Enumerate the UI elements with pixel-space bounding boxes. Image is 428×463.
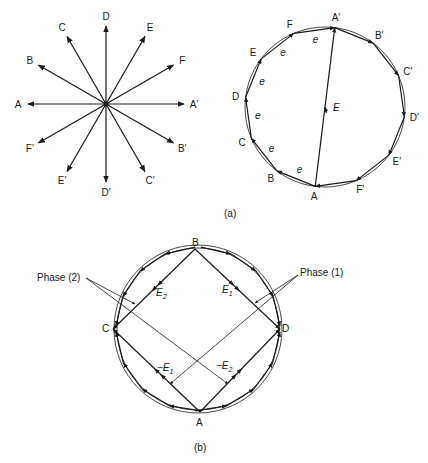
phasor-label: B xyxy=(26,55,33,66)
vertex-label: C xyxy=(239,137,246,148)
phasor-arrow xyxy=(38,65,106,104)
polygon-segment xyxy=(356,155,389,180)
phasor-label: A′ xyxy=(190,99,199,110)
arc-segment xyxy=(140,254,165,271)
e2-label: E2 xyxy=(156,287,167,300)
arc-segment xyxy=(116,332,123,363)
segment-e-label: e xyxy=(313,34,319,45)
neg-e2-label: −E2 xyxy=(216,360,233,373)
phasor-label: C xyxy=(58,22,65,33)
vertex-label: E′ xyxy=(393,156,402,167)
phasor-label: D′ xyxy=(101,187,110,198)
arc-segment xyxy=(142,389,169,406)
mid-arrow xyxy=(236,287,239,290)
vertex-label: A′ xyxy=(332,12,341,23)
phasor-label: F′ xyxy=(26,143,34,154)
vertex-label: C′ xyxy=(403,66,412,77)
resultant-mid-arrow xyxy=(325,107,327,113)
arc-segment xyxy=(254,363,273,389)
point-b-label: B xyxy=(192,237,199,248)
segment-e-label: e xyxy=(280,47,286,58)
mid-arrow xyxy=(238,369,241,372)
star-center xyxy=(104,102,109,107)
figure: ABCDEFA′B′C′D′E′F′ AeBeCeDeEeFeA′B′C′D′E… xyxy=(0,0,428,463)
vertex-label: A xyxy=(311,191,318,202)
phasor-label: A xyxy=(15,99,22,110)
vertex-label: D′ xyxy=(410,112,419,123)
inner-circle xyxy=(117,248,279,410)
mid-arrow xyxy=(158,282,161,285)
mid-arrow xyxy=(233,375,236,378)
polygon-segment xyxy=(261,33,294,58)
vertex-label: B xyxy=(268,173,275,184)
arc-segment xyxy=(273,332,280,363)
mid-arrow xyxy=(161,375,164,378)
arc-segment xyxy=(227,389,254,406)
phasor-label: B′ xyxy=(178,143,187,154)
phasor-arrow xyxy=(106,104,174,143)
point-d-label: D xyxy=(282,323,289,334)
outer-circle xyxy=(114,245,282,413)
arc-segment xyxy=(273,296,280,326)
phasor-arrow xyxy=(38,104,106,143)
vertex-label: F xyxy=(287,19,293,30)
arc-segment xyxy=(123,363,142,389)
point-a-label: A xyxy=(196,417,203,428)
polygon-segment xyxy=(373,43,398,76)
vertex-label: B′ xyxy=(375,30,384,41)
phasor-arrow xyxy=(106,104,145,172)
phasor-arrow xyxy=(106,36,145,104)
phasor-label: C′ xyxy=(145,175,154,186)
arc-segment xyxy=(201,247,231,254)
segment-e-label: e xyxy=(255,110,261,121)
phasor-label: F xyxy=(179,55,185,66)
arc-segment xyxy=(231,254,256,271)
segment-e-label: e xyxy=(269,143,275,154)
resultant-vector xyxy=(315,28,334,187)
segment-e-label: e xyxy=(259,76,265,87)
vertex-label: E xyxy=(250,47,257,58)
caption-b: (b) xyxy=(194,442,206,453)
segment-e-label: e xyxy=(297,164,303,175)
polygon-segment xyxy=(335,28,373,44)
arc-segment xyxy=(123,271,140,296)
phase2-leader-1 xyxy=(86,278,135,304)
mid-arrow xyxy=(230,282,233,285)
point-c-label: C xyxy=(102,323,109,334)
phase-1-label: Phase (1) xyxy=(300,267,343,278)
phasor-label: D xyxy=(102,11,109,22)
arc-segment xyxy=(195,406,227,411)
phasor-arrow xyxy=(106,65,174,104)
resultant-label: E xyxy=(333,102,340,113)
phasor-star: ABCDEFA′B′C′D′E′F′ xyxy=(15,11,199,198)
phasor-arrow xyxy=(67,104,106,172)
polygon-segment xyxy=(246,97,252,138)
vertex-label: F′ xyxy=(356,184,364,195)
phasor-arrow xyxy=(67,36,106,104)
polygon-segment xyxy=(389,117,405,155)
phasor-polygon: AeBeCeDeEeFeA′B′C′D′E′F′E xyxy=(232,12,419,202)
polygon-segment xyxy=(315,181,356,187)
phasor-label: E′ xyxy=(58,175,67,186)
two-phase-diagram xyxy=(86,245,298,413)
polygon-segment xyxy=(399,76,405,117)
e1-label: E1 xyxy=(222,284,233,297)
vertex-label: D xyxy=(232,91,239,102)
caption-a: (a) xyxy=(224,208,236,219)
phasor-label: E xyxy=(147,22,154,33)
polygon-segment xyxy=(294,28,335,34)
phase-2-label: Phase (2) xyxy=(37,272,80,283)
